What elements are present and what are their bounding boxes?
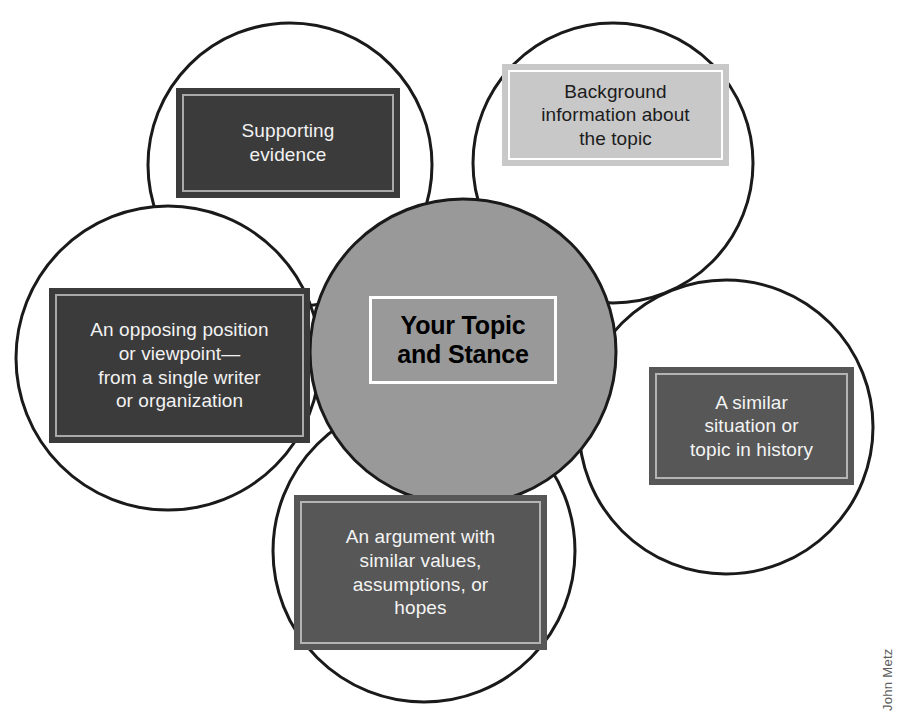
petal-card-similar-history[interactable]: A similar situation or topic in history [650,368,853,484]
petal-card-supporting-evidence[interactable]: Supporting evidence [177,89,399,197]
petal-card-similar-history-label: A similar situation or topic in history [655,391,848,462]
petal-card-similar-argument-label: An argument with similar values, assumpt… [300,525,541,619]
diagram-canvas: Supporting evidence Background informati… [0,0,901,719]
petal-card-supporting-evidence-label: Supporting evidence [182,119,394,166]
center-topic-label[interactable]: Your Topic and Stance [369,296,557,384]
petal-card-opposing-position-label: An opposing position or viewpoint— from … [55,318,304,412]
petal-card-background-info-label: Background information about the topic [508,80,723,151]
petal-card-background-info[interactable]: Background information about the topic [502,64,729,166]
petal-card-similar-argument[interactable]: An argument with similar values, assumpt… [295,496,546,649]
petal-card-opposing-position[interactable]: An opposing position or viewpoint— from … [50,289,309,442]
artist-credit: John Metz [879,607,897,711]
